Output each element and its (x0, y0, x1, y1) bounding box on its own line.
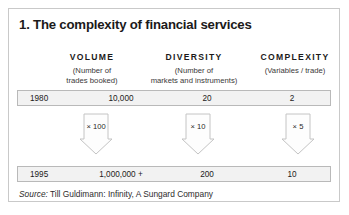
down-arrow-icon-volume: × 100 (79, 113, 113, 155)
row-year-1980: 1980 (22, 91, 66, 107)
row-diversity-1980: 20 (176, 91, 238, 107)
table-row: 1980 10,000 20 2 (17, 90, 331, 106)
down-arrow-icon-complexity: × 5 (281, 113, 315, 155)
column-title-volume: VOLUME (37, 53, 147, 62)
column-subtitle-volume-line2: trades booked) (37, 76, 147, 86)
source-label: Source: (19, 189, 48, 199)
column-subtitle-complexity-line1: (Variables / trade) (245, 66, 345, 76)
table-row: 1995 1,000,000 + 200 10 (17, 166, 331, 182)
row-volume-1980: 10,000 (66, 91, 176, 107)
page-title: 1. The complexity of financial services (19, 17, 252, 32)
source-note: Source: Till Guldimann: Infinity, A Sung… (19, 189, 213, 199)
column-subtitle-diversity-line2: markets and instruments) (137, 76, 251, 86)
row-year-1995: 1995 (22, 167, 66, 183)
multiplier-label-diversity: × 10 (181, 122, 215, 131)
multiplier-label-volume: × 100 (79, 122, 113, 131)
row-diversity-1995: 200 (176, 167, 238, 183)
row-volume-1995: 1,000,000 + (66, 167, 176, 183)
multiplier-label-complexity: × 5 (281, 122, 315, 131)
figure-panel: 1. The complexity of financial services … (8, 8, 340, 202)
column-title-complexity: COMPLEXITY (245, 53, 345, 62)
column-header-complexity: COMPLEXITY (Variables / trade) (245, 53, 345, 76)
column-header-diversity: DIVERSITY (Number of markets and instrum… (137, 53, 251, 86)
source-text: Till Guldimann: Infinity, A Sungard Comp… (50, 189, 213, 199)
column-subtitle-diversity: (Number of markets and instruments) (137, 66, 251, 87)
row-complexity-1980: 2 (254, 91, 330, 107)
column-header-volume: VOLUME (Number of trades booked) (37, 53, 147, 86)
column-subtitle-complexity: (Variables / trade) (245, 66, 345, 76)
column-subtitle-diversity-line1: (Number of (137, 66, 251, 76)
row-complexity-1995: 10 (254, 167, 330, 183)
column-title-diversity: DIVERSITY (137, 53, 251, 62)
column-subtitle-volume-line1: (Number of (37, 66, 147, 76)
down-arrow-icon-diversity: × 10 (181, 113, 215, 155)
column-subtitle-volume: (Number of trades booked) (37, 66, 147, 87)
